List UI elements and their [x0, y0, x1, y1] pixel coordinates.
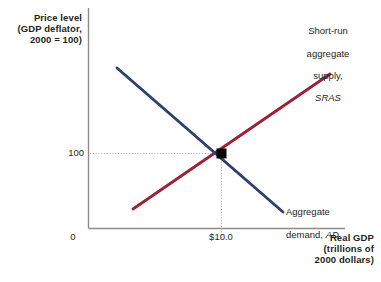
- y-tick-label-100: 100: [56, 147, 84, 158]
- sras-label-line1: Short-run: [308, 25, 348, 36]
- ad-label-line2: demand,: [286, 229, 326, 240]
- sras-curve-label: Short-run aggregate supply, SRAS: [282, 14, 374, 104]
- sras-label-line2: aggregate: [307, 48, 350, 59]
- ad-label-abbrev: AD: [326, 229, 339, 240]
- sras-label-abbrev: SRAS: [315, 92, 341, 103]
- origin-label: 0: [62, 231, 84, 242]
- equilibrium-marker: [217, 149, 227, 159]
- ad-label-line1: Aggregate: [286, 206, 330, 217]
- ad-sras-chart: Price level (GDP deflator, 2000 = 100) R…: [0, 0, 381, 282]
- y-axis-title: Price level (GDP deflator, 2000 = 100): [6, 12, 82, 46]
- x-tick-label-10: $10.0: [196, 231, 246, 242]
- ad-curve-label: Aggregate demand, AD: [286, 195, 374, 240]
- sras-label-line3: supply,: [313, 70, 342, 81]
- ad-curve: [117, 68, 283, 212]
